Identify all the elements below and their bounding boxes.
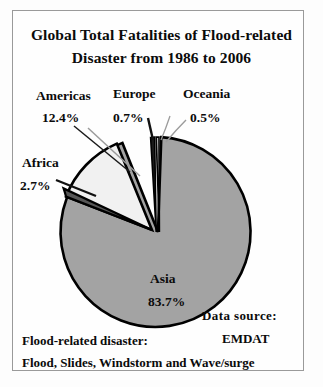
footer-line-2: Flood, Slides, Windstorm and Wave/surge [22, 355, 255, 371]
slice-label-europe: Europe [113, 86, 156, 102]
data-source-value: EMDAT [222, 331, 269, 347]
slice-percent-asia: 83.7% [148, 294, 185, 310]
slice-percent-europe: 0.7% [113, 110, 143, 126]
slice-label-asia: Asia [150, 271, 176, 287]
slice-label-oceania: Oceania [183, 86, 230, 102]
data-source-label: Data source: [202, 308, 277, 324]
slice-percent-africa: 2.7% [20, 178, 50, 194]
leader-line-europe [148, 118, 153, 140]
footer-line-1: Flood-related disaster: [22, 333, 148, 349]
slice-percent-oceania: 0.5% [190, 110, 220, 126]
chart-page: Global Total Fatalities of Flood-related… [0, 0, 323, 387]
slice-label-africa: Africa [22, 155, 59, 171]
slice-label-americas: Americas [36, 88, 91, 104]
slice-percent-americas: 12.4% [42, 110, 79, 126]
